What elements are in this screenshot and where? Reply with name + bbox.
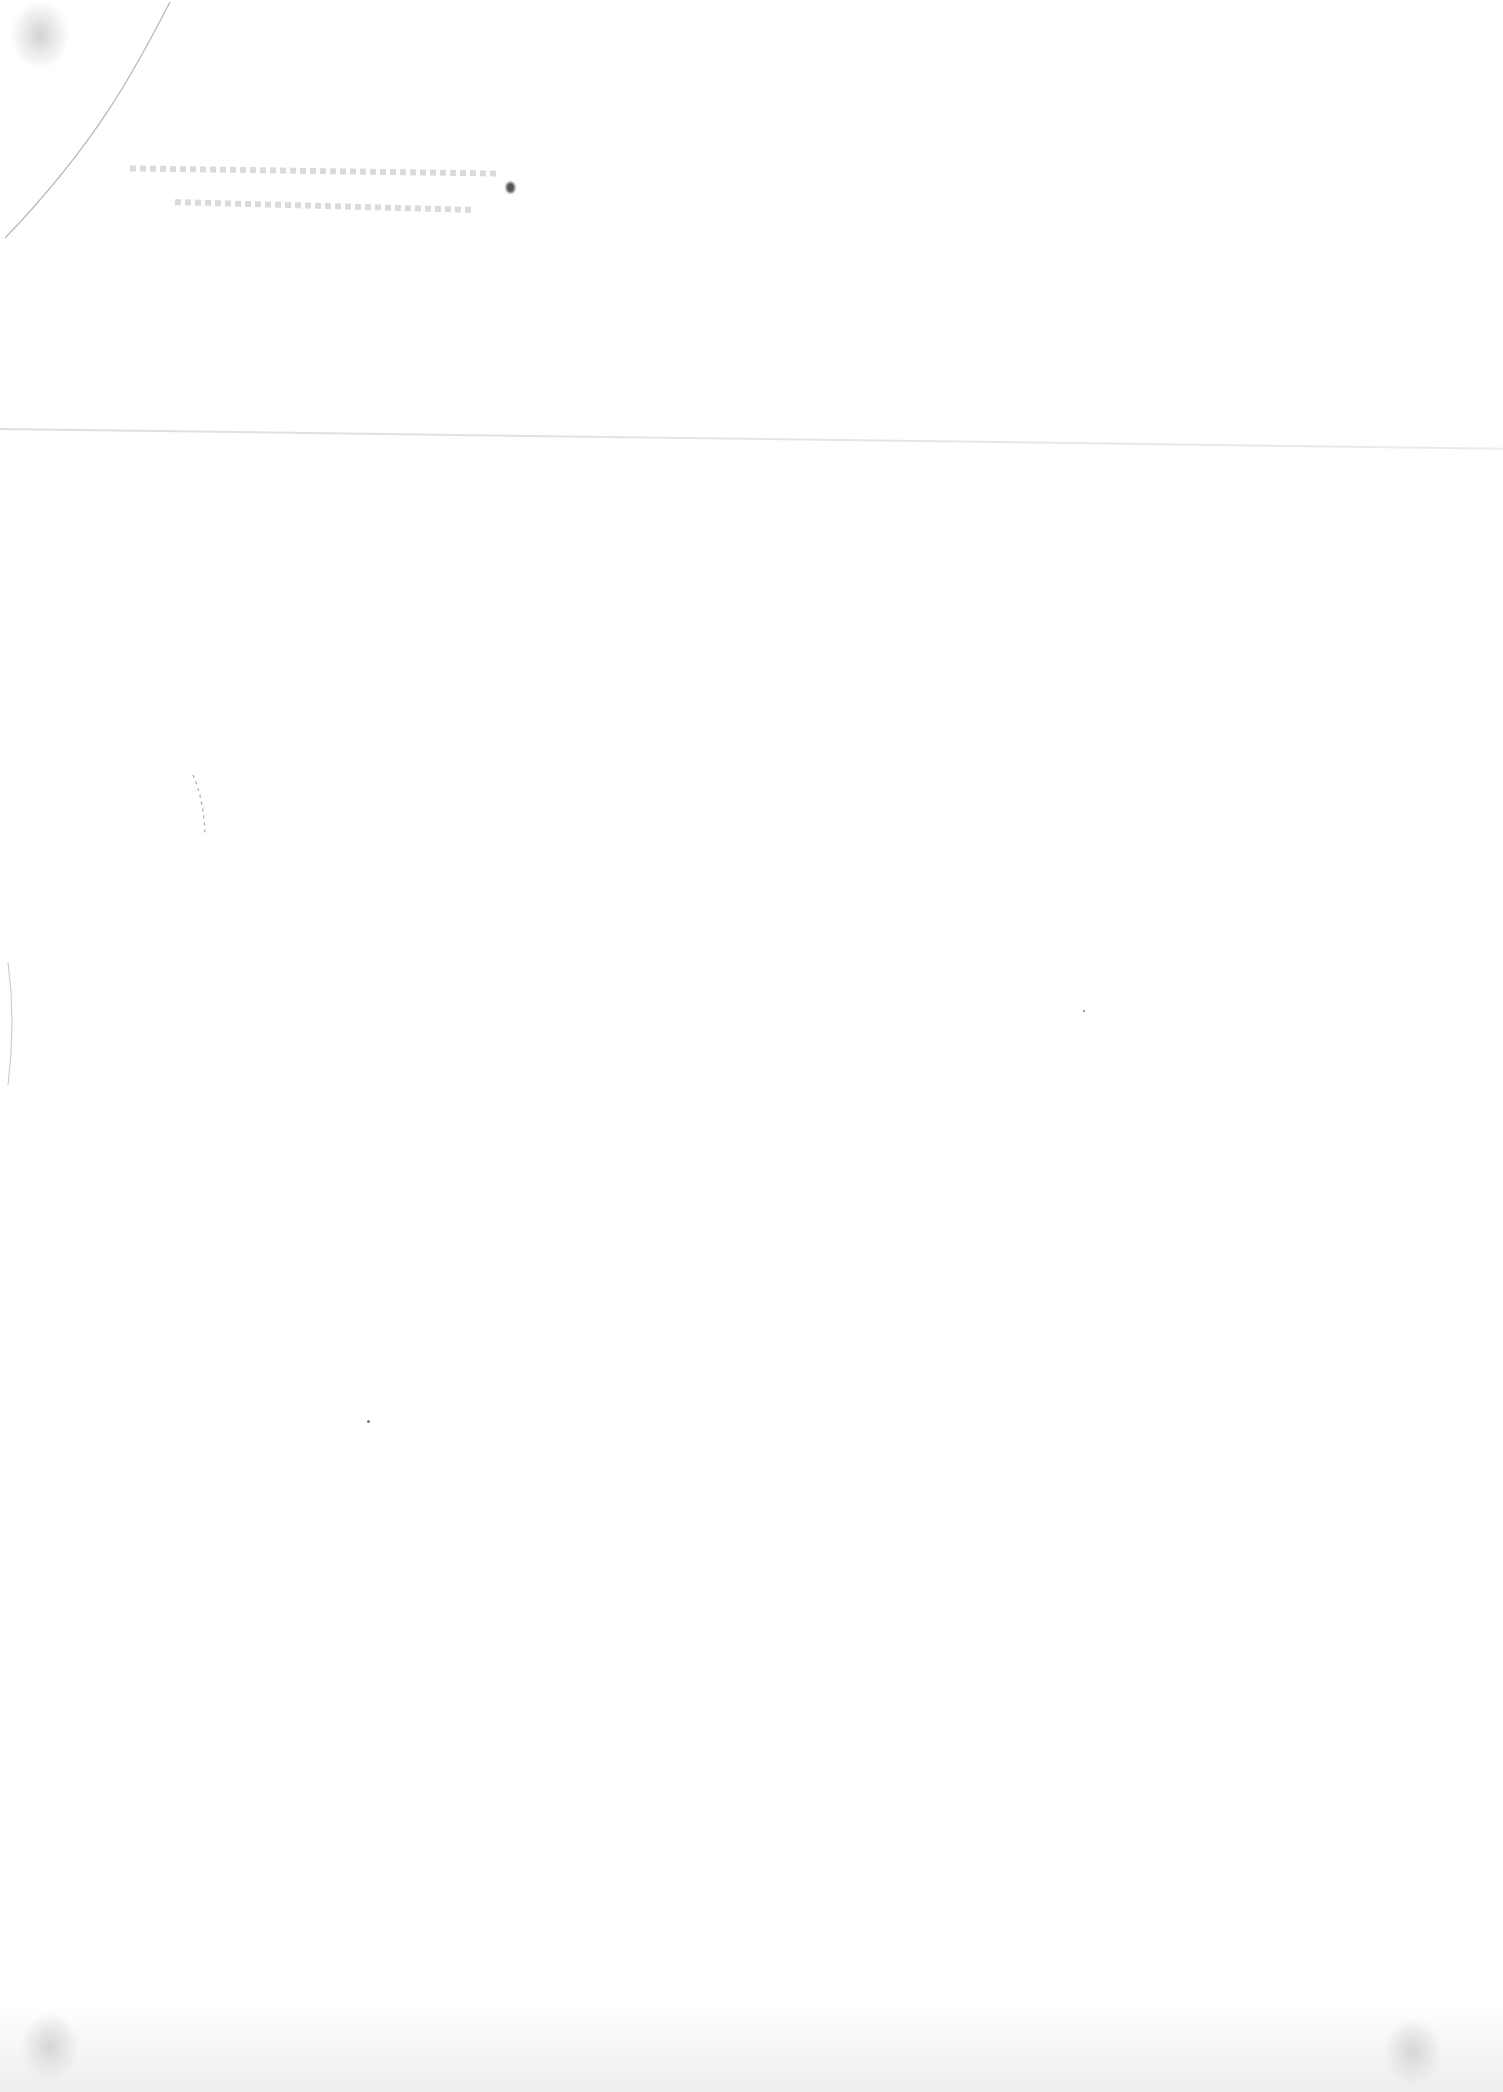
scan-edge-noise <box>0 2002 1503 2092</box>
speck <box>367 1420 370 1423</box>
bleed-through-text-line <box>130 165 500 176</box>
scanned-page: Blank scanned page with faint illegible … <box>0 0 1503 2092</box>
fold-line <box>0 428 1503 450</box>
ink-blot <box>506 182 515 193</box>
smudge <box>10 0 70 70</box>
edge-mark <box>2 960 18 1090</box>
speck <box>1083 1010 1085 1012</box>
bleed-through-text-line <box>175 199 475 213</box>
pencil-mark <box>190 770 210 840</box>
